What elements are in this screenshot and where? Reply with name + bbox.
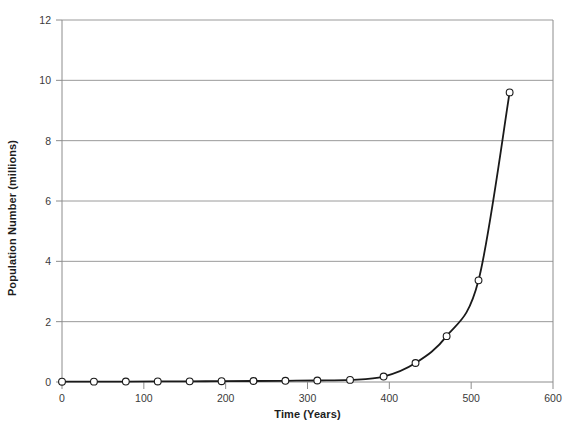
- data-point-marker: [91, 378, 98, 385]
- data-point-marker: [154, 378, 161, 385]
- data-point-marker: [314, 377, 321, 384]
- y-axis-ticks: [56, 20, 62, 382]
- y-axis-tick-labels: 024681012: [39, 14, 51, 388]
- y-tick-label: 4: [45, 255, 51, 267]
- y-tick-label: 6: [45, 195, 51, 207]
- data-line-population: [62, 92, 510, 381]
- data-point-marker: [186, 378, 193, 385]
- x-tick-label: 300: [299, 392, 317, 404]
- x-tick-label: 0: [59, 392, 65, 404]
- data-point-marker: [443, 333, 450, 340]
- y-tick-label: 2: [45, 316, 51, 328]
- data-point-marker: [506, 89, 513, 96]
- data-point-marker: [250, 378, 257, 385]
- x-tick-label: 500: [462, 392, 480, 404]
- x-axis-ticks: [62, 382, 553, 389]
- x-tick-label: 100: [135, 392, 153, 404]
- data-point-marker: [122, 378, 129, 385]
- y-tick-label: 8: [45, 135, 51, 147]
- x-tick-label: 600: [544, 392, 562, 404]
- data-point-marker: [380, 373, 387, 380]
- y-tick-label: 0: [45, 376, 51, 388]
- y-tick-label: 12: [39, 14, 51, 26]
- data-point-marker: [412, 360, 419, 367]
- plot-area: 0100200300400500600 024681012: [0, 0, 571, 436]
- data-point-marker: [475, 277, 482, 284]
- x-axis-tick-labels: 0100200300400500600: [59, 392, 562, 404]
- y-tick-label: 10: [39, 74, 51, 86]
- population-growth-chart: Population Number (millions) Time (Years…: [0, 0, 571, 436]
- series-path: [62, 92, 510, 381]
- data-point-marker: [218, 378, 225, 385]
- data-point-marker: [347, 376, 354, 383]
- x-tick-label: 200: [217, 392, 235, 404]
- data-markers-population: [59, 89, 513, 385]
- data-point-marker: [59, 378, 66, 385]
- x-tick-label: 400: [381, 392, 399, 404]
- data-point-marker: [282, 377, 289, 384]
